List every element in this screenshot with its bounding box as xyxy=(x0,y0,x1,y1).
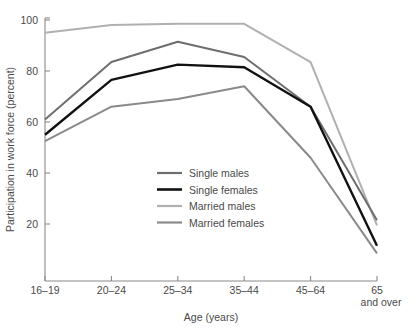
y-tick-label: 20 xyxy=(26,218,38,230)
legend-label: Single males xyxy=(189,167,249,179)
x-axis-title: Age (years) xyxy=(184,311,238,323)
x-tick-label: 45–64 xyxy=(296,284,325,296)
legend-label: Married males xyxy=(189,200,256,212)
chart-container: 2040608010016–1920–2425–3435–4445–6465an… xyxy=(0,0,417,330)
x-tick-label: 65 xyxy=(371,284,383,296)
x-tick-label-secondline: and over xyxy=(361,296,402,308)
y-tick-label: 40 xyxy=(26,167,38,179)
legend-label: Single females xyxy=(189,184,258,196)
y-tick-label: 100 xyxy=(20,14,38,26)
x-tick-label: 35–44 xyxy=(230,284,259,296)
y-tick-label: 60 xyxy=(26,116,38,128)
line-chart: 2040608010016–1920–2425–3435–4445–6465an… xyxy=(0,0,417,330)
x-tick-label: 20–24 xyxy=(97,284,126,296)
x-tick-label: 16–19 xyxy=(30,284,59,296)
axes xyxy=(45,18,377,281)
chart-legend: Single malesSingle femalesMarried malesM… xyxy=(157,167,264,229)
y-axis-title: Participation in work force (percent) xyxy=(4,67,16,232)
x-tick-label: 25–34 xyxy=(163,284,192,296)
legend-label: Married females xyxy=(189,217,264,229)
y-tick-label: 80 xyxy=(26,65,38,77)
